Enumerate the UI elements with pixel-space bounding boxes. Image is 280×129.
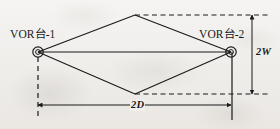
vor-station-1-label: VOR台-1 (10, 29, 55, 41)
vor-station-2-label: VOR台-2 (199, 29, 244, 41)
coverage-rhombus (38, 15, 231, 94)
dimension-label-2w: 2W (256, 47, 271, 58)
dimension-label-2d: 2D (130, 100, 145, 111)
vor-coverage-diagram: VOR台-1 VOR台-2 2W 2D (0, 0, 280, 129)
